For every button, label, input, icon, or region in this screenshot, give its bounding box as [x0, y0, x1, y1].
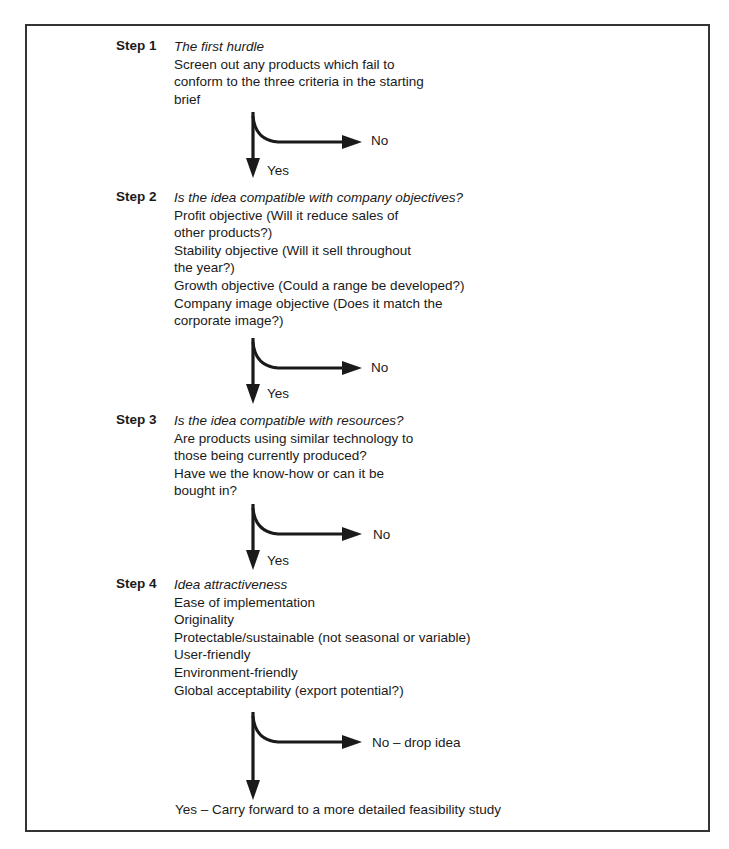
decision-arrow-icon: [244, 112, 364, 184]
step-2-title: Is the idea compatible with company obje…: [174, 189, 594, 207]
step-2-no-label: No: [371, 360, 388, 375]
step-4-yes-label: Yes – Carry forward to a more detailed f…: [175, 802, 501, 817]
step-4-no-label: No – drop idea: [372, 735, 461, 750]
step-1-no-label: No: [371, 133, 388, 148]
step-3-line: Have we the know-how or can it be: [174, 465, 594, 483]
step-2-line: the year?): [174, 259, 594, 277]
step-1-label: Step 1: [116, 38, 157, 53]
step-3-no-label: No: [373, 527, 390, 542]
step-4-line: Environment-friendly: [174, 664, 594, 682]
decision-arrow-icon: [244, 712, 364, 804]
step-2-yes-label: Yes: [267, 386, 289, 401]
step-1-line: brief: [174, 91, 594, 109]
step-3-line: bought in?: [174, 482, 594, 500]
step-3-yes-label: Yes: [267, 553, 289, 568]
step-1-title: The first hurdle: [174, 38, 594, 56]
step-4-label: Step 4: [116, 576, 157, 591]
step-4-line: Originality: [174, 611, 594, 629]
step-4-line: Protectable/sustainable (not seasonal or…: [174, 629, 594, 647]
step-1-line: Screen out any products which fail to: [174, 56, 594, 74]
step-3-line: Are products using similar technology to: [174, 430, 594, 448]
step-4-body: Idea attractiveness Ease of implementati…: [174, 576, 594, 699]
step-3-body: Is the idea compatible with resources? A…: [174, 412, 594, 500]
step-2-body: Is the idea compatible with company obje…: [174, 189, 594, 330]
step-4-line: User-friendly: [174, 646, 594, 664]
step-1-body: The first hurdle Screen out any products…: [174, 38, 594, 108]
decision-arrow-icon: [244, 504, 364, 576]
step-1-yes-label: Yes: [267, 163, 289, 178]
step-3-label: Step 3: [116, 412, 157, 427]
step-2-label: Step 2: [116, 189, 157, 204]
step-2-line: Growth objective (Could a range be devel…: [174, 277, 594, 295]
step-3-line: those being currently produced?: [174, 447, 594, 465]
step-1-line: conform to the three criteria in the sta…: [174, 73, 594, 91]
step-2-line: Company image objective (Does it match t…: [174, 295, 594, 313]
step-2-line: other products?): [174, 224, 594, 242]
decision-arrow-icon: [244, 338, 364, 410]
step-2-line: corporate image?): [174, 312, 594, 330]
step-4-line: Global acceptability (export potential?): [174, 682, 594, 700]
step-4-line: Ease of implementation: [174, 594, 594, 612]
step-2-line: Profit objective (Will it reduce sales o…: [174, 207, 594, 225]
step-2-line: Stability objective (Will it sell throug…: [174, 242, 594, 260]
step-3-title: Is the idea compatible with resources?: [174, 412, 594, 430]
step-4-title: Idea attractiveness: [174, 576, 594, 594]
